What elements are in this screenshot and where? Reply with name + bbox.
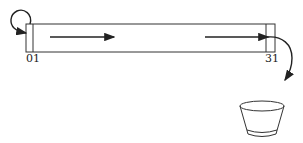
cell-label-1: 1 [33, 52, 40, 65]
bucket-icon [240, 101, 284, 137]
loop-arrow-icon [11, 10, 31, 33]
cell-label-31: 31 [265, 52, 279, 65]
register-bar [26, 24, 275, 52]
cell-label-0: 0 [26, 52, 33, 65]
shift-register-diagram: 0 1 31 [0, 0, 303, 143]
